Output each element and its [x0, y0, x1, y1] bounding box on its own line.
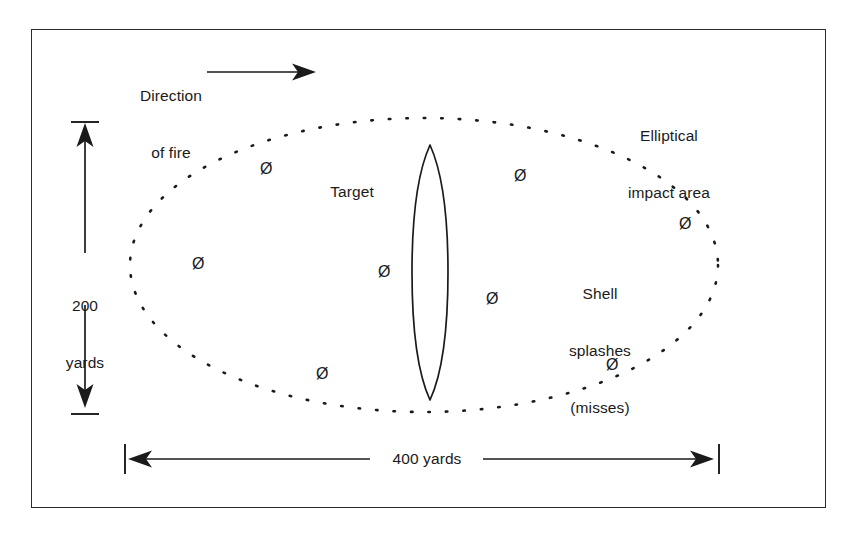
elliptical-impact-area-label: Elliptical impact area: [590, 88, 748, 240]
shell-splashes-line1: Shell: [532, 284, 668, 303]
figure-canvas: Direction of fire Elliptical impact area…: [0, 0, 850, 535]
shell-splash-marker-icon: Ø: [316, 366, 328, 382]
vertical-dimension-line2: yards: [45, 353, 125, 372]
shell-splashes-label: Shell splashes (misses): [532, 246, 668, 455]
elliptical-impact-area-line1: Elliptical: [590, 126, 748, 145]
shell-splash-marker-icon: Ø: [486, 291, 498, 307]
target-shape: [412, 145, 448, 400]
direction-of-fire-label: Direction of fire: [116, 48, 226, 200]
shell-splash-marker-icon: Ø: [514, 168, 526, 184]
shell-splash-marker-icon: Ø: [679, 216, 691, 232]
shell-splash-marker-icon: Ø: [260, 161, 272, 177]
shell-splash-marker-icon: Ø: [192, 256, 204, 272]
direction-of-fire-line2: of fire: [116, 143, 226, 162]
shell-splash-marker-icon: Ø: [378, 264, 390, 280]
target-label: Target: [307, 182, 397, 201]
shell-splash-marker-icon: Ø: [606, 357, 618, 373]
shell-splashes-line3: (misses): [532, 398, 668, 417]
horizontal-dimension-label: 400 yards: [372, 449, 482, 468]
shell-splashes-line2: splashes: [532, 341, 668, 360]
elliptical-impact-area-line2: impact area: [590, 183, 748, 202]
direction-of-fire-line1: Direction: [116, 86, 226, 105]
vertical-dimension-label: 200 yards: [45, 258, 125, 410]
vertical-dimension-line1: 200: [45, 296, 125, 315]
